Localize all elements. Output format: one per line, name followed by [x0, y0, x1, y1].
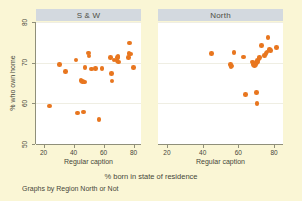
panel-caption-left: Regular caption — [36, 158, 141, 165]
scatter-point — [93, 66, 98, 71]
x-tick-label: 80 — [270, 149, 277, 156]
y-tick-mark — [32, 103, 35, 104]
scatter-point — [243, 92, 248, 97]
x-axis-line-right — [158, 144, 283, 145]
scatter-point — [116, 60, 121, 65]
grid-line — [36, 63, 141, 64]
scatter-point — [126, 55, 131, 60]
scatter-point — [81, 110, 86, 115]
scatter-point — [83, 65, 88, 70]
x-tick-mark — [74, 145, 75, 148]
scatter-point — [75, 111, 80, 116]
scatter-point — [57, 62, 62, 67]
grid-line — [158, 103, 283, 104]
plot-panel-right — [158, 22, 283, 144]
scatter-point — [268, 48, 273, 53]
panel-caption-right: Regular caption — [158, 158, 283, 165]
scatter-point — [209, 51, 214, 56]
x-axis-title: % born in state of residence — [0, 172, 302, 181]
panel-header-left: S & W — [36, 9, 141, 21]
panel-header-right: North — [158, 9, 283, 21]
y-tick-label: 60 — [18, 99, 32, 107]
x-tick-label: 20 — [40, 149, 47, 156]
chart-figure: % who own home 506070802040608020406080 … — [0, 0, 302, 201]
scatter-point — [255, 101, 260, 106]
scatter-point — [97, 117, 102, 122]
x-tick-mark — [134, 145, 135, 148]
scatter-point — [254, 90, 259, 95]
x-tick-mark — [274, 145, 275, 148]
panel-header-right-label: North — [210, 11, 231, 20]
y-tick-label: 50 — [18, 140, 32, 148]
y-tick-label: 80 — [18, 18, 32, 26]
x-tick-label: 20 — [163, 149, 170, 156]
scatter-point — [82, 80, 87, 85]
x-tick-label: 80 — [130, 149, 137, 156]
x-tick-label: 60 — [235, 149, 242, 156]
x-tick-label: 40 — [199, 149, 206, 156]
scatter-point — [266, 35, 271, 40]
scatter-point — [232, 50, 237, 55]
y-axis-label: % who own home — [6, 28, 18, 138]
x-tick-label: 60 — [100, 149, 107, 156]
scatter-point — [259, 43, 264, 48]
scatter-point — [274, 45, 279, 50]
x-tick-mark — [104, 145, 105, 148]
plot-panel-left — [36, 22, 141, 144]
scatter-point — [63, 69, 68, 74]
grid-line — [158, 63, 283, 64]
y-tick-label: 70 — [18, 59, 32, 67]
x-tick-mark — [203, 145, 204, 148]
panel-header-left-label: S & W — [77, 11, 101, 20]
scatter-point — [131, 65, 136, 70]
y-tick-mark — [32, 63, 35, 64]
x-tick-mark — [44, 145, 45, 148]
x-tick-mark — [167, 145, 168, 148]
x-tick-label: 40 — [70, 149, 77, 156]
scatter-point — [229, 64, 234, 69]
y-tick-mark — [32, 144, 35, 145]
x-tick-mark — [238, 145, 239, 148]
x-axis-line-left — [36, 144, 141, 145]
y-axis-label-text: % who own home — [9, 55, 16, 110]
grid-line — [158, 22, 283, 23]
figure-note: Graphs by Region North or Not — [22, 185, 119, 192]
scatter-point — [109, 71, 114, 76]
y-tick-mark — [32, 22, 35, 23]
grid-line — [36, 22, 141, 23]
edge-artifact-text — [285, 8, 301, 70]
